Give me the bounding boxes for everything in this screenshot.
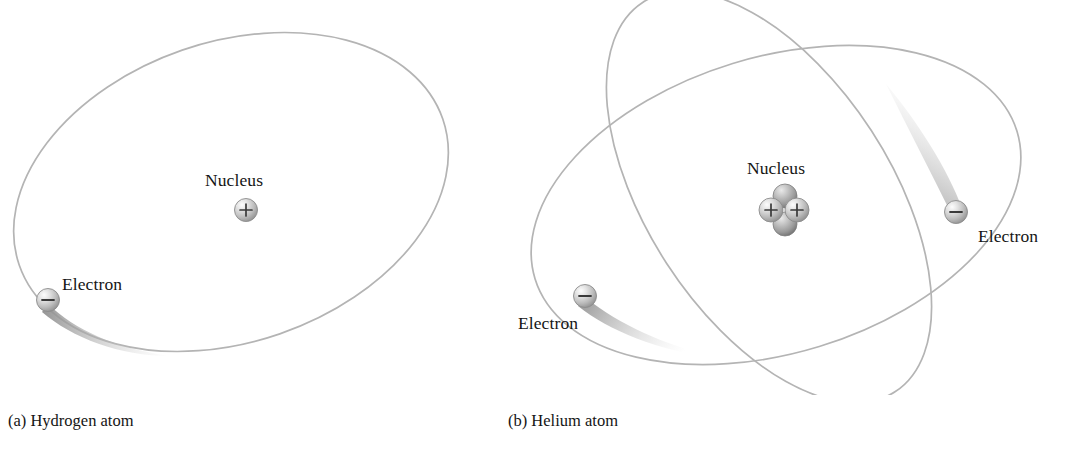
hydrogen-nucleus-proton [235, 199, 258, 222]
helium-nucleus-cluster [759, 184, 809, 236]
helium-electron-label-left: Electron [518, 315, 578, 333]
hydrogen-electron-label: Electron [62, 276, 122, 294]
helium-diagram-stage [500, 0, 1070, 395]
helium-svg [500, 0, 1070, 395]
helium-electron-trail-right [886, 84, 962, 215]
hydrogen-svg [0, 0, 500, 395]
helium-proton-right [785, 198, 809, 222]
figure-canvas: Nucleus Electron (a) Hydrogen atom [0, 0, 1070, 462]
hydrogen-nucleus-label: Nucleus [205, 172, 263, 190]
hydrogen-electron-particle [37, 289, 60, 312]
hydrogen-caption: (a) Hydrogen atom [8, 413, 134, 430]
helium-caption: (b) Helium atom [508, 413, 618, 430]
helium-orbit-path-2 [540, 0, 997, 395]
hydrogen-orbit-path [0, 0, 492, 395]
helium-electron-particle-left [574, 285, 597, 308]
panel-helium-atom: Nucleus Electron Electron (b) Helium ato… [500, 0, 1070, 462]
panel-hydrogen-atom: Nucleus Electron (a) Hydrogen atom [0, 0, 500, 462]
helium-electron-particle-right [945, 201, 968, 224]
helium-proton-left [759, 198, 783, 222]
helium-electron-label-right: Electron [978, 228, 1038, 246]
helium-nucleus-label: Nucleus [747, 160, 805, 178]
hydrogen-diagram-stage [0, 0, 500, 395]
helium-electron-trail-left [578, 298, 712, 356]
hydrogen-electron-trail [42, 304, 170, 356]
